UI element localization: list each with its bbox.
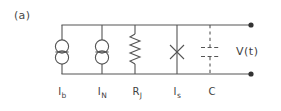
bottom-terminal-dot: [248, 71, 253, 76]
branch-noise-current-source: [95, 25, 108, 74]
label-supercurrent-junction: Is: [174, 86, 181, 97]
branch-supercurrent-junction: [170, 25, 184, 74]
branch-bias-current-source: [55, 25, 68, 74]
top-terminal-dot: [248, 22, 253, 27]
label-capacitance-main: C: [209, 86, 216, 97]
label-capacitance: C: [209, 86, 216, 97]
label-noise-current-source: IN: [98, 86, 107, 97]
label-noise-current-source-sub: N: [101, 91, 107, 100]
output-voltage-label: V(t): [236, 45, 258, 58]
label-junction-resistance-sub: J: [140, 91, 142, 100]
branch-capacitance: [201, 25, 219, 74]
label-junction-resistance: RJ: [132, 86, 141, 97]
label-junction-resistance-main: R: [132, 86, 139, 97]
label-bias-current-source: Ib: [58, 86, 66, 97]
circuit-rails: [62, 25, 251, 74]
resistor-icon-zigzag: [130, 34, 140, 64]
label-bias-current-source-sub: b: [62, 91, 67, 100]
branch-junction-resistance: [130, 25, 140, 74]
circuit-diagram-figure: (a): [0, 0, 281, 111]
label-supercurrent-junction-sub: s: [177, 91, 181, 100]
